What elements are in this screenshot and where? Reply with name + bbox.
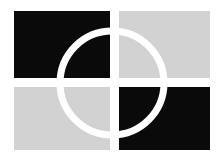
logo-canvas (0, 0, 220, 164)
quadrant-ring-emblem (0, 0, 220, 164)
